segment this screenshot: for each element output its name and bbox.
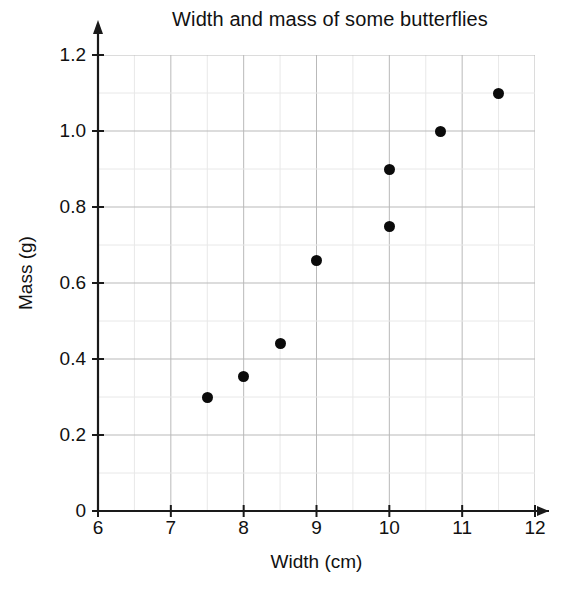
y-tick-label: 0.2 — [40, 424, 86, 446]
data-point — [493, 88, 504, 99]
y-tick-label: 1.0 — [40, 120, 86, 142]
x-axis-title: Width (cm) — [98, 551, 535, 573]
y-tick-label: 1.2 — [40, 44, 86, 66]
x-tick-label: 9 — [297, 517, 337, 539]
data-points-layer — [98, 55, 535, 511]
y-tick-label: 0.8 — [40, 196, 86, 218]
x-tick-label: 8 — [224, 517, 264, 539]
scatter-chart: Width and mass of some butterflies 00.20… — [0, 0, 572, 589]
y-tick-label: 0.4 — [40, 348, 86, 370]
data-point — [384, 164, 395, 175]
x-tick-label: 6 — [78, 517, 118, 539]
x-tick-label: 12 — [515, 517, 555, 539]
x-tick-label: 10 — [369, 517, 409, 539]
y-axis-title: Mass (g) — [15, 203, 37, 343]
data-point — [275, 338, 286, 349]
x-tick-label: 7 — [151, 517, 191, 539]
data-point — [435, 126, 446, 137]
data-point — [384, 221, 395, 232]
plot-area — [98, 55, 535, 511]
y-tick-label: 0.6 — [40, 272, 86, 294]
x-tick-label: 11 — [442, 517, 482, 539]
x-tick-labels: 6789101112 — [0, 517, 572, 547]
chart-title: Width and mass of some butterflies — [110, 8, 550, 31]
data-point — [238, 371, 249, 382]
y-tick-labels: 00.20.40.60.81.01.2 — [36, 0, 86, 589]
data-point — [202, 392, 213, 403]
data-point — [311, 255, 322, 266]
